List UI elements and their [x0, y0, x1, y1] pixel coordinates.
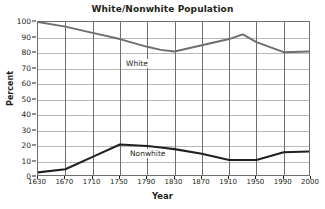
y-tick-mark-70 — [32, 67, 36, 68]
x-tick-label-1950: 1950 — [246, 178, 264, 186]
y-tick-mark-80 — [32, 52, 36, 53]
y-tick-label-60: 60 — [21, 79, 31, 88]
x-tick-label-1990: 1990 — [274, 178, 292, 186]
x-tick-label-1910: 1910 — [219, 178, 237, 186]
y-tick-mark-10 — [32, 160, 36, 161]
x-tick-label-1870: 1870 — [192, 178, 210, 186]
x-tick-mark-1630 — [37, 176, 38, 179]
plot-area: White Nonwhite — [37, 21, 310, 176]
x-tick-label-1830: 1830 — [165, 178, 183, 186]
x-tick-mark-1670 — [64, 176, 65, 179]
y-tick-mark-20 — [32, 145, 36, 146]
series-lines — [38, 22, 309, 175]
series-label-nonwhite: Nonwhite — [129, 149, 166, 158]
x-tick-mark-1950 — [255, 176, 256, 179]
y-tick-mark-90 — [32, 36, 36, 37]
y-tick-mark-50 — [32, 98, 36, 99]
x-tick-mark-1990 — [283, 176, 284, 179]
plot-inner — [38, 22, 309, 175]
y-tick-label-30: 30 — [21, 125, 31, 134]
chart-figure: White/Nonwhite Population Percent 100908… — [0, 0, 325, 209]
y-tick-label-20: 20 — [21, 141, 31, 150]
y-tick-label-90: 90 — [21, 32, 31, 41]
x-tick-label-1710: 1710 — [83, 178, 101, 186]
x-tick-mark-1870 — [201, 176, 202, 179]
x-tick-label-1670: 1670 — [55, 178, 73, 186]
y-tick-label-80: 80 — [21, 48, 31, 57]
x-tick-mark-1910 — [228, 176, 229, 179]
y-axis-tick-labels: 1009080706050403020100 — [0, 21, 34, 176]
y-tick-mark-0 — [32, 176, 36, 177]
y-tick-mark-40 — [32, 114, 36, 115]
x-tick-label-1790: 1790 — [137, 178, 155, 186]
y-tick-label-100: 100 — [17, 17, 31, 26]
x-tick-mark-1790 — [146, 176, 147, 179]
y-tick-label-10: 10 — [21, 156, 31, 165]
series-label-white: White — [125, 59, 149, 68]
y-tick-label-50: 50 — [21, 94, 31, 103]
x-tick-label-1630: 1630 — [28, 178, 46, 186]
y-tick-mark-60 — [32, 83, 36, 84]
x-axis-label: Year — [0, 191, 325, 201]
y-tick-label-70: 70 — [21, 63, 31, 72]
x-tick-mark-2000 — [310, 176, 311, 179]
y-tick-mark-100 — [32, 21, 36, 22]
series-line-white — [38, 22, 309, 52]
chart-title: White/Nonwhite Population — [0, 4, 325, 14]
y-tick-mark-30 — [32, 129, 36, 130]
x-tick-mark-1710 — [92, 176, 93, 179]
x-tick-label-2000: 2000 — [301, 178, 319, 186]
y-tick-label-40: 40 — [21, 110, 31, 119]
x-tick-label-1750: 1750 — [110, 178, 128, 186]
x-axis-tick-labels: 1630167017101750179018301870191019501990… — [37, 178, 310, 192]
x-tick-mark-1830 — [174, 176, 175, 179]
series-line-nonwhite — [38, 144, 309, 172]
x-tick-mark-1750 — [119, 176, 120, 179]
